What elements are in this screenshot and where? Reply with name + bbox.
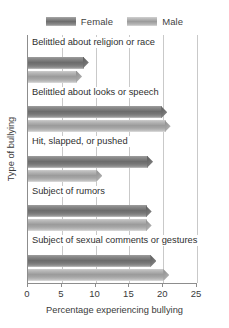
x-tick-label: 0	[24, 288, 29, 299]
bar-end-cap	[146, 205, 152, 217]
bar-end-cap	[163, 269, 169, 281]
bar-female	[28, 106, 167, 118]
legend-swatch-male	[127, 17, 157, 26]
bar-row	[28, 71, 197, 83]
x-tick-label: 25	[191, 288, 202, 299]
bar-body	[28, 120, 166, 132]
bar-row	[28, 120, 197, 132]
bar-body	[28, 269, 164, 281]
bar-female	[28, 205, 152, 217]
bar-chart: Female Male Belittled about religion or …	[0, 0, 229, 328]
x-tick-mark	[162, 283, 163, 287]
bar-end-cap	[165, 120, 171, 132]
bar-group: Subject of rumors	[28, 184, 197, 234]
legend-label-male: Male	[162, 16, 183, 27]
legend-swatch-female	[46, 17, 76, 26]
bar-body	[28, 71, 77, 83]
category-label: Subject of sexual comments or gestures	[31, 235, 199, 246]
bar-body	[28, 255, 151, 267]
bar-group: Belittled about religion or race	[28, 35, 197, 85]
bar-groups: Belittled about religion or raceBelittle…	[28, 35, 197, 283]
bar-row	[28, 57, 197, 69]
x-tick-label: 20	[157, 288, 168, 299]
category-label: Belittled about looks or speech	[31, 87, 161, 98]
bar-body	[28, 219, 147, 231]
bar-end-cap	[96, 170, 102, 182]
bar-end-cap	[146, 219, 152, 231]
bar-group: Belittled about looks or speech	[28, 85, 197, 135]
x-axis-label: Percentage experiencing bullying	[0, 305, 229, 315]
bar-end-cap	[83, 57, 89, 69]
bar-end-cap	[147, 156, 153, 168]
bar-female	[28, 57, 89, 69]
x-tick-mark	[27, 283, 28, 287]
category-label: Belittled about religion or race	[31, 37, 157, 48]
x-tick-mark	[196, 283, 197, 287]
bar-body	[28, 156, 148, 168]
bar-row	[28, 255, 197, 267]
bar-row	[28, 156, 197, 168]
category-label: Hit, slapped, or pushed	[31, 136, 130, 147]
bar-body	[28, 205, 147, 217]
bar-male	[28, 120, 171, 132]
bar-male	[28, 219, 152, 231]
legend-item-male: Male	[127, 16, 183, 27]
bar-row	[28, 205, 197, 217]
bar-row	[28, 219, 197, 231]
bar-male	[28, 269, 169, 281]
y-axis-label: Type of bullying	[6, 84, 16, 214]
category-label: Subject of rumors	[31, 186, 107, 197]
bar-body	[28, 106, 162, 118]
chart-legend: Female Male	[0, 11, 229, 31]
bar-female	[28, 255, 156, 267]
x-tick-mark	[128, 283, 129, 287]
bar-group: Subject of sexual comments or gestures	[28, 233, 197, 283]
legend-label-female: Female	[81, 16, 113, 27]
x-tick-label: 5	[58, 288, 63, 299]
bar-row	[28, 106, 197, 118]
bar-row	[28, 269, 197, 281]
legend-item-female: Female	[46, 16, 113, 27]
bar-row	[28, 170, 197, 182]
x-tick-label: 10	[89, 288, 100, 299]
bar-female	[28, 156, 153, 168]
bar-end-cap	[150, 255, 156, 267]
plot-area: Belittled about religion or raceBelittle…	[27, 35, 197, 283]
x-tick-label: 15	[123, 288, 134, 299]
bar-group: Hit, slapped, or pushed	[28, 134, 197, 184]
bar-body	[28, 170, 97, 182]
x-axis-ticks: 0510152025	[0, 283, 229, 299]
bar-body	[28, 57, 84, 69]
bar-end-cap	[161, 106, 167, 118]
x-tick-mark	[61, 283, 62, 287]
bar-end-cap	[76, 71, 82, 83]
bar-male	[28, 71, 82, 83]
bar-male	[28, 170, 102, 182]
x-tick-mark	[95, 283, 96, 287]
